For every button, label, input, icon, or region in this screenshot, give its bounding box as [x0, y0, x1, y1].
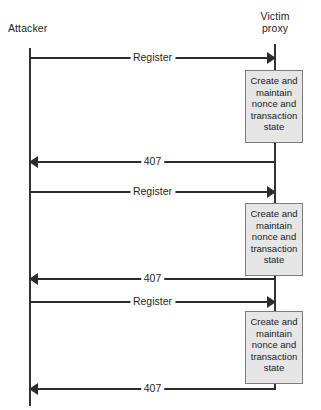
message-label-register: Register: [130, 294, 175, 308]
message-407-1: 407: [30, 155, 275, 169]
lifeline-attacker: [29, 48, 31, 406]
message-label-407: 407: [141, 381, 165, 395]
message-register-1: Register: [30, 51, 275, 65]
arrowhead-left-icon: [29, 383, 38, 395]
action-box-create-maintain-3: Create and maintain nonce and transactio…: [245, 311, 303, 384]
arrowhead-right-icon: [267, 52, 276, 64]
message-407-2: 407: [30, 272, 275, 286]
message-label-register: Register: [130, 50, 175, 64]
sequence-diagram: Attacker Victim proxy Register Create an…: [0, 0, 321, 410]
message-407-3: 407: [30, 382, 275, 396]
message-label-register: Register: [130, 184, 175, 198]
message-label-407: 407: [141, 154, 165, 168]
message-label-407: 407: [141, 271, 165, 285]
participant-label-victim-proxy: Victim proxy: [243, 10, 307, 34]
participant-label-attacker: Attacker: [8, 22, 47, 34]
arrowhead-left-icon: [29, 156, 38, 168]
action-box-create-maintain-2: Create and maintain nonce and transactio…: [245, 203, 303, 276]
message-register-2: Register: [30, 185, 275, 199]
arrowhead-right-icon: [267, 186, 276, 198]
action-box-create-maintain-1: Create and maintain nonce and transactio…: [245, 70, 303, 143]
arrowhead-left-icon: [29, 273, 38, 285]
message-register-3: Register: [30, 295, 275, 309]
arrowhead-right-icon: [267, 296, 276, 308]
